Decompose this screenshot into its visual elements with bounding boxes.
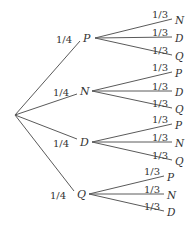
leaf-label-q: Q bbox=[175, 103, 184, 116]
leaf-label-n: N bbox=[174, 137, 185, 149]
leaf-label-n: N bbox=[166, 189, 177, 201]
probability-tree-diagram: 1/4P1/3N1/3D1/3Q1/4N1/3P1/3D1/3Q1/4D1/3P… bbox=[0, 0, 196, 225]
second-level-probability-label: 1/3 bbox=[152, 9, 168, 20]
second-level-probability-label: 1/3 bbox=[152, 62, 168, 73]
second-level-probability-label: 1/3 bbox=[152, 27, 168, 38]
node-label-d: D bbox=[79, 136, 89, 149]
second-level-probability-label: 1/3 bbox=[152, 150, 168, 161]
leaf-label-p: P bbox=[166, 171, 175, 183]
first-level-probability-label: 1/4 bbox=[53, 87, 69, 98]
second-level-probability-label: 1/3 bbox=[152, 132, 168, 143]
leaf-label-p: P bbox=[174, 119, 183, 131]
second-level-probability-label: 1/3 bbox=[152, 45, 168, 56]
leaf-label-d: D bbox=[166, 206, 176, 218]
second-level-probability-label: 1/3 bbox=[152, 81, 168, 92]
leaf-label-d: D bbox=[174, 32, 184, 44]
leaf-label-n: N bbox=[174, 14, 185, 26]
first-level-probability-label: 1/4 bbox=[53, 138, 69, 149]
node-label-p: P bbox=[82, 32, 91, 45]
second-level-probability-label: 1/3 bbox=[144, 201, 160, 212]
second-level-probability-label: 1/3 bbox=[144, 184, 160, 195]
first-level-probability-label: 1/4 bbox=[56, 34, 72, 45]
second-level-probability-label: 1/3 bbox=[152, 114, 168, 125]
node-label-q: Q bbox=[77, 188, 86, 201]
node-label-n: N bbox=[79, 85, 90, 98]
leaf-label-q: Q bbox=[175, 155, 184, 168]
second-level-probability-label: 1/3 bbox=[152, 98, 168, 109]
leaf-label-p: P bbox=[174, 67, 183, 79]
second-level-probability-label: 1/3 bbox=[144, 166, 160, 177]
leaf-label-d: D bbox=[174, 86, 184, 98]
first-level-probability-label: 1/4 bbox=[50, 190, 66, 201]
leaf-label-q: Q bbox=[175, 50, 184, 63]
